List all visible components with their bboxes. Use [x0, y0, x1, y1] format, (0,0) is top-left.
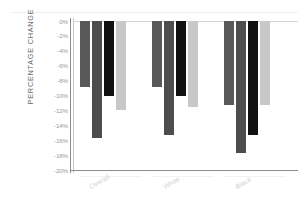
bar-overall-series-4 [116, 21, 126, 110]
plot-area [70, 21, 298, 170]
bar-overall-series-3 [104, 21, 114, 96]
y-tick-3: -6% [33, 62, 68, 69]
y-tick-5: -10% [33, 92, 68, 99]
category-rule-1 [152, 176, 214, 177]
y-axis-line-inner [73, 18, 74, 173]
y-tick-10: -20% [33, 167, 68, 174]
bar-white-series-4 [188, 21, 198, 107]
y-axis-tick-labels: 0% -2% -4% -6% -8% -10% -12% -14% -16% -… [33, 15, 68, 173]
bar-overall-series-2 [92, 21, 102, 138]
bar-black-series-2 [236, 21, 246, 153]
bar-chart: PERCENTAGE CHANGE 0% -2% -4% -6% -8% -10… [0, 0, 307, 209]
bar-black-series-1 [224, 21, 234, 105]
bar-white-series-1 [152, 21, 162, 87]
y-tick-8: -16% [33, 137, 68, 144]
bar-black-series-3 [248, 21, 258, 135]
bar-overall-series-1 [80, 21, 90, 87]
x-category-label-black: Black [234, 175, 252, 190]
y-tick-1: -2% [33, 32, 68, 39]
y-tick-2: -4% [33, 47, 68, 54]
category-rule-2 [224, 176, 286, 177]
y-tick-0: 0% [33, 18, 68, 25]
x-axis-line [70, 170, 298, 171]
y-tick-7: -14% [33, 122, 68, 129]
bar-black-series-4 [260, 21, 270, 105]
title-divider [12, 12, 298, 13]
category-rule-0 [80, 176, 142, 177]
y-tick-9: -18% [33, 152, 68, 159]
y-tick-6: -12% [33, 107, 68, 114]
y-tick-4: -8% [33, 77, 68, 84]
cropped-title-strip [0, 0, 307, 14]
y-axis-line [70, 18, 71, 173]
bar-white-series-2 [164, 21, 174, 135]
bar-white-series-3 [176, 21, 186, 96]
x-category-label-white: White [162, 175, 181, 190]
